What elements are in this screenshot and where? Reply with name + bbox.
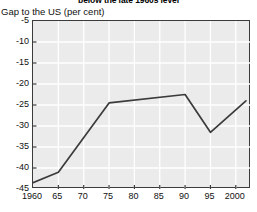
y-tick-label: -15 — [0, 58, 29, 67]
chart-figure: below the late 1960s level Gap to the US… — [0, 0, 257, 212]
data-series-line — [33, 95, 246, 183]
x-tick-label: 85 — [154, 192, 164, 201]
y-tick-label: -30 — [0, 121, 29, 130]
x-tick-label: 65 — [52, 192, 62, 201]
x-tick-label: 90 — [179, 192, 189, 201]
y-tick-label: -20 — [0, 79, 29, 88]
gridlines — [33, 21, 251, 189]
y-tick-label: -40 — [0, 163, 29, 172]
x-tick-label: 95 — [204, 192, 214, 201]
plot-svg — [33, 21, 251, 189]
y-axis-caption: Gap to the US (per cent) — [1, 6, 105, 17]
chart-headline: below the late 1960s level — [0, 0, 257, 5]
y-tick-label: -35 — [0, 142, 29, 151]
x-tick-label: 75 — [103, 192, 113, 201]
x-tick-label: 1960 — [22, 192, 42, 201]
plot-area — [32, 20, 250, 188]
x-tick-label: 2000 — [225, 192, 245, 201]
x-tick-label: 80 — [128, 192, 138, 201]
x-tick-label: 70 — [78, 192, 88, 201]
y-tick-label: -25 — [0, 100, 29, 109]
y-tick-label: -10 — [0, 37, 29, 46]
